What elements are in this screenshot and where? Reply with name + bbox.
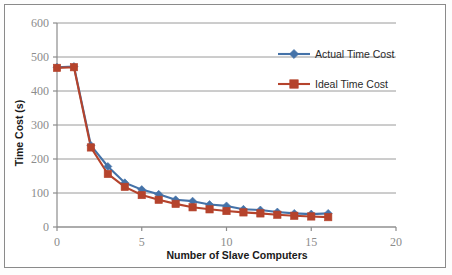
y-tick-label: 300 [31, 118, 49, 132]
y-tick-label: 600 [31, 16, 49, 30]
data-point-marker [325, 213, 332, 220]
series-line-square [57, 67, 328, 217]
y-tick-label: 500 [31, 50, 49, 64]
data-point-marker [308, 213, 315, 220]
data-point-marker [155, 196, 162, 203]
data-point-marker [291, 212, 298, 219]
data-point-marker [87, 144, 94, 151]
data-point-marker [53, 64, 60, 71]
y-tick-label: 400 [31, 84, 49, 98]
data-point-marker [189, 204, 196, 211]
x-tick-label: 20 [390, 235, 402, 249]
x-tick-label: 5 [139, 235, 145, 249]
figure-frame: 05101520 0100200300400500600 Actual Time… [4, 4, 446, 268]
x-tick-label: 15 [305, 235, 317, 249]
data-point-marker [104, 170, 111, 177]
y-tick-label-group: 0100200300400500600 [31, 16, 49, 234]
screenshot-root: 05101520 0100200300400500600 Actual Time… [0, 0, 452, 275]
data-point-marker [274, 211, 281, 218]
x-tick-label: 0 [54, 235, 60, 249]
legend-entry-label: Actual Time Cost [315, 48, 394, 60]
y-axis-title: Time Cost (s) [13, 100, 25, 166]
data-point-marker [206, 206, 213, 213]
x-tick-label: 10 [221, 235, 233, 249]
series-line-diamond [57, 67, 328, 215]
y-tick-label: 0 [43, 220, 49, 234]
chart-legend: Actual Time CostIdeal Time Cost [278, 48, 394, 90]
data-point-marker [70, 64, 77, 71]
x-tick-label-group: 05101520 [54, 235, 402, 249]
data-point-marker [121, 183, 128, 190]
data-point-marker [223, 207, 230, 214]
y-tick-label: 100 [31, 186, 49, 200]
legend-square-marker-icon [290, 80, 298, 88]
data-point-marker [257, 210, 264, 217]
legend-entry-label: Ideal Time Cost [315, 78, 388, 90]
x-axis-title: Number of Slave Computers [166, 249, 307, 261]
data-point-marker [240, 209, 247, 216]
data-point-marker [172, 200, 179, 207]
data-point-marker [138, 191, 145, 198]
y-tick-label: 200 [31, 152, 49, 166]
time-cost-line-chart: 05101520 0100200300400500600 Actual Time… [5, 5, 445, 267]
